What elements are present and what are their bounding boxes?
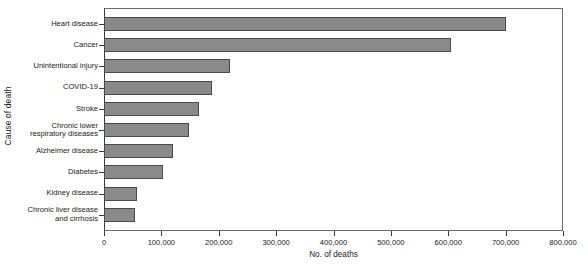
x-axis-tick bbox=[506, 231, 507, 236]
bars-layer bbox=[104, 8, 563, 231]
bar bbox=[104, 208, 135, 222]
y-axis-tick bbox=[99, 45, 104, 46]
x-axis-tick bbox=[448, 231, 449, 236]
y-axis-tick bbox=[99, 151, 104, 152]
bar bbox=[104, 81, 212, 95]
category-label: Heart disease bbox=[14, 20, 98, 28]
category-label: COVID-19 bbox=[14, 83, 98, 91]
x-axis-tick-label: 500,000 bbox=[377, 238, 404, 247]
x-axis-tick-label: 0 bbox=[102, 238, 106, 247]
x-axis-tick-label: 600,000 bbox=[435, 238, 462, 247]
bar bbox=[104, 144, 173, 158]
y-axis-tick bbox=[99, 130, 104, 131]
y-axis-tick bbox=[99, 215, 104, 216]
y-axis-tick bbox=[99, 24, 104, 25]
x-axis-tick-label: 700,000 bbox=[492, 238, 519, 247]
bar bbox=[104, 17, 506, 31]
y-axis-tick bbox=[99, 194, 104, 195]
bar bbox=[104, 38, 451, 52]
category-label: Kidney disease bbox=[14, 189, 98, 197]
x-axis-tick bbox=[276, 231, 277, 236]
category-label: Stroke bbox=[14, 105, 98, 113]
x-axis-tick bbox=[104, 231, 105, 236]
x-axis-tick bbox=[563, 231, 564, 236]
y-axis-tick bbox=[99, 88, 104, 89]
x-axis-tick bbox=[334, 231, 335, 236]
category-label-list: Heart diseaseCancerUnintentional injuryC… bbox=[14, 8, 98, 231]
x-axis-tick-label: 300,000 bbox=[262, 238, 289, 247]
bar bbox=[104, 123, 189, 137]
bar-chart: Cause of death Heart diseaseCancerUninte… bbox=[0, 0, 586, 269]
category-label: Cancer bbox=[14, 41, 98, 49]
y-axis-title-text: Cause of death bbox=[3, 86, 13, 145]
y-axis-tick bbox=[99, 66, 104, 67]
y-axis-tick bbox=[99, 109, 104, 110]
category-label: Diabetes bbox=[14, 168, 98, 176]
x-axis-tick bbox=[391, 231, 392, 236]
bar bbox=[104, 59, 230, 73]
bar bbox=[104, 165, 163, 179]
x-axis-tick-label: 100,000 bbox=[148, 238, 175, 247]
y-axis-tick bbox=[99, 172, 104, 173]
category-label: Chronic liver disease and cirrhosis bbox=[14, 206, 98, 223]
x-axis-tick-label: 400,000 bbox=[320, 238, 347, 247]
category-label: Alzheimer disease bbox=[14, 147, 98, 155]
x-axis-tick bbox=[219, 231, 220, 236]
x-axis-tick bbox=[161, 231, 162, 236]
bar bbox=[104, 102, 199, 116]
x-axis-tick-label: 200,000 bbox=[205, 238, 232, 247]
category-label: Chronic lower respiratory diseases bbox=[14, 122, 98, 139]
x-axis-tick-label: 800,000 bbox=[549, 238, 576, 247]
category-label: Unintentional injury bbox=[14, 62, 98, 70]
bar bbox=[104, 187, 137, 201]
x-axis-title: No. of deaths bbox=[104, 250, 563, 259]
